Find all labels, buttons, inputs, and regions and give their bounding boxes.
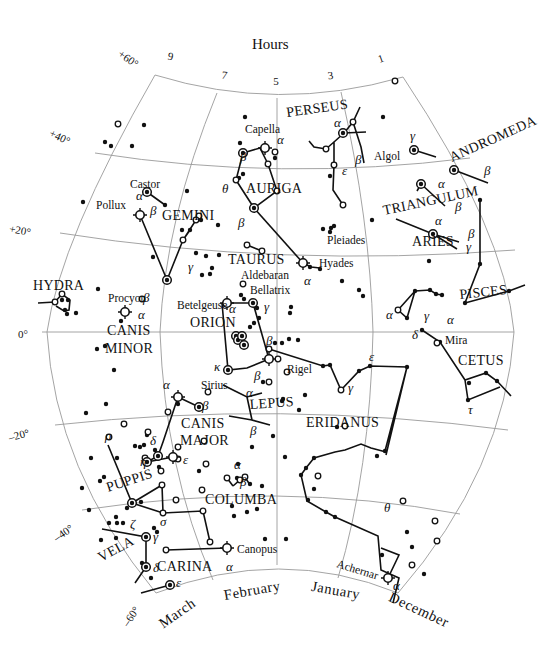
star-dot-icon — [288, 311, 292, 315]
star-dot-icon — [507, 289, 511, 293]
greek-letter-label: θ — [222, 181, 229, 196]
star-dot-icon — [74, 311, 78, 315]
month-label: January — [310, 578, 361, 602]
bright-star-icon — [166, 581, 175, 590]
greek-letter-label: ε — [369, 349, 375, 364]
star-name-label: Rigel — [287, 363, 312, 376]
greek-letter-label: β — [483, 163, 491, 178]
star-dot-icon — [232, 514, 236, 518]
greek-letter-label: σ — [160, 514, 167, 529]
greek-letter-label: α — [138, 307, 146, 322]
star-name-label: Betelgeuse — [177, 299, 227, 312]
star-dot-icon — [80, 486, 84, 490]
bright-star-icon — [163, 276, 172, 285]
variable-star-icon — [331, 162, 337, 168]
star-dot-icon — [405, 365, 409, 369]
star-dot-icon — [484, 371, 488, 375]
declination-tick-label: +20° — [8, 222, 31, 238]
star-dot-icon — [130, 144, 134, 148]
greek-letter-label: δ — [153, 560, 160, 575]
declination-tick-label: –20° — [6, 426, 30, 443]
bright-star-icon — [238, 332, 247, 341]
greek-letter-label: α — [438, 176, 446, 191]
star-dot-icon — [142, 443, 146, 447]
variable-star-icon — [121, 421, 127, 427]
greek-letter-label: α — [393, 578, 401, 593]
star-dot-icon — [241, 172, 245, 176]
star-dot-icon — [252, 321, 256, 325]
greek-letter-label: α — [447, 312, 455, 327]
greek-letter-label: ρ — [104, 428, 111, 443]
star-dot-icon — [303, 393, 307, 397]
star-dot-icon — [299, 473, 303, 477]
constellation-label: HYDRA — [33, 278, 85, 293]
star-dot-icon — [87, 508, 91, 512]
constellation-label: PUPPIS — [104, 466, 154, 495]
variable-star-icon — [275, 356, 281, 362]
star-dot-icon — [107, 521, 111, 525]
star-dot-icon — [340, 279, 344, 283]
variable-star-icon — [115, 121, 121, 127]
bright-star-icon — [250, 204, 259, 213]
star-dot-icon — [65, 312, 69, 316]
star-name-label: Canopus — [237, 543, 278, 556]
hour-tick-label: 9 — [167, 50, 175, 63]
constellation-label: CANIS — [181, 416, 225, 431]
star-dot-icon — [321, 227, 325, 231]
variable-star-icon — [338, 387, 344, 393]
star-dot-icon — [142, 123, 146, 127]
star-dot-icon — [102, 475, 106, 479]
greek-letter-label: δ — [150, 433, 157, 448]
constellation-label: LEPUS — [249, 394, 294, 412]
bright-star-icon — [224, 366, 233, 375]
star-dot-icon — [368, 364, 372, 368]
greek-letter-label: α — [246, 385, 254, 400]
constellation-label: ANDROMEDA — [447, 113, 539, 165]
variable-star-icon — [158, 468, 164, 474]
star-dot-icon — [405, 530, 409, 534]
greek-letter-label: α — [304, 273, 312, 288]
star-dot-icon — [381, 115, 385, 119]
star-dot-icon — [333, 515, 337, 519]
constellation-label: GEMINI — [162, 208, 214, 223]
star-dot-icon — [321, 364, 325, 368]
bright-star-icon — [249, 299, 258, 308]
star-dot-icon — [304, 466, 308, 470]
star-dot-icon — [243, 115, 247, 119]
star-name-label: Sirius — [201, 379, 228, 391]
greek-letter-label: γ — [264, 299, 270, 314]
greek-letter-label: α — [334, 115, 342, 130]
variable-star-icon — [224, 475, 230, 481]
star-dot-icon — [112, 368, 116, 372]
variable-star-icon — [434, 340, 440, 346]
labels: 97531+60°+40°+20°0°–20°–40°–60°MarchFebr… — [6, 47, 539, 631]
variable-star-icon — [409, 562, 415, 568]
star-dot-icon — [188, 228, 192, 232]
star-dot-icon — [261, 380, 265, 384]
star-dot-icon — [283, 455, 287, 459]
star-name-label: Hyades — [319, 257, 354, 270]
greek-letter-label: η — [140, 454, 146, 469]
star-dot-icon — [306, 498, 310, 502]
greek-letter-label: α — [277, 132, 285, 147]
star-dot-icon — [422, 572, 426, 576]
greek-letter-label: β — [253, 368, 261, 383]
constellation-label: MAJOR — [180, 433, 229, 448]
first-magnitude-star-icon — [258, 141, 272, 155]
bright-star-icon — [154, 452, 163, 461]
variable-star-icon — [265, 161, 271, 167]
variable-star-icon — [173, 497, 179, 503]
greek-letter-label: γ — [410, 128, 416, 143]
star-dot-icon — [328, 174, 332, 178]
variable-star-icon — [272, 149, 278, 155]
variable-star-icon — [434, 538, 440, 544]
variable-star-icon — [52, 299, 58, 305]
constellation-label: PISCES — [459, 282, 508, 302]
star-dot-icon — [324, 510, 328, 514]
star-dot-icon — [84, 411, 88, 415]
star-dot-icon — [151, 255, 155, 259]
constellation-label: MINOR — [105, 341, 154, 356]
star-dot-icon — [427, 259, 431, 263]
variable-star-icon — [315, 473, 321, 479]
star-dot-icon — [239, 293, 243, 297]
